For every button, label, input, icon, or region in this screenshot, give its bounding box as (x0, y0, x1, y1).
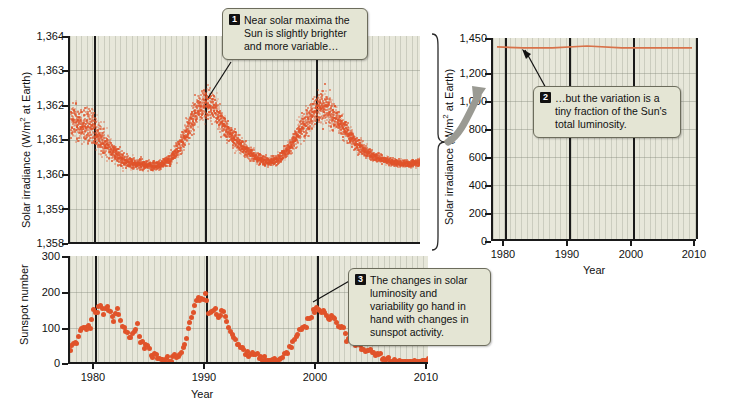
callout-3-number: 3 (355, 274, 366, 285)
xtick-label: 1990 (179, 372, 229, 383)
zoom-link-brace-and-arrow (424, 30, 504, 255)
xtick-label: 2000 (290, 372, 340, 383)
callout-1: 1Near solar maxima the Sun is slightly b… (222, 8, 368, 60)
xtick-label: 2000 (606, 249, 656, 260)
xtick-label: 2010 (669, 249, 719, 260)
callout-1-text: Near solar maxima the Sun is slightly br… (244, 14, 358, 53)
ytick-label: 300 (24, 251, 60, 262)
irradiance-zoomed-plot (68, 36, 420, 244)
xtick-label: 1980 (68, 372, 118, 383)
sunspot-ylabel: Sunspot number (18, 264, 30, 345)
xtick-label: 2010 (401, 372, 451, 383)
callout-2-number: 2 (540, 92, 551, 103)
callout-2: 2…but the variation is a tiny fraction o… (533, 86, 681, 138)
solar-irradiance-figure: 1,364 1,363 1,362 1,361 1,360 1,359 1,35… (0, 0, 743, 408)
sunspot-xlabel: Year (191, 388, 213, 400)
ytick-label: 1,364 (20, 31, 64, 42)
xtick-label: 1990 (542, 249, 592, 260)
callout-2-text: …but the variation is a tiny fraction of… (555, 92, 671, 131)
irradiance-scatter-points (70, 36, 420, 242)
irradiance-full-scale-xlabel: Year (583, 264, 605, 276)
callout-3-text: The changes in solar luminosity and vari… (370, 274, 481, 339)
callout-3: 3The changes in solar luminosity and var… (348, 268, 491, 346)
ytick-label: 1,358 (20, 238, 64, 249)
callout-1-leader-line (198, 60, 238, 105)
callout-1-number: 1 (229, 14, 240, 25)
ytick-label: 0 (24, 358, 60, 369)
irradiance-zoomed-ylabel: Solar irradiance (W/m2 at Earth) (18, 72, 32, 228)
